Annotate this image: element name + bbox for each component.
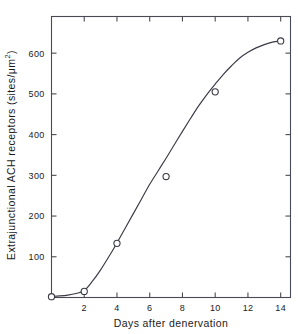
x-tick-label: 10 <box>210 303 221 313</box>
fitted-curve <box>52 41 281 296</box>
y-tick-label: 600 <box>29 49 45 59</box>
data-point-marker <box>163 173 169 179</box>
x-tick-label: 6 <box>147 303 152 313</box>
x-tick-label: 4 <box>114 303 119 313</box>
y-tick-label: 200 <box>29 211 45 221</box>
x-axis-tick-labels: 2468101214 <box>82 303 286 313</box>
x-tick-label: 12 <box>243 303 254 313</box>
data-point-marker <box>48 294 54 300</box>
y-tick-label: 500 <box>29 89 45 99</box>
y-axis-ticks <box>52 53 291 257</box>
y-tick-label: 400 <box>29 130 45 140</box>
data-point-marker <box>114 240 120 246</box>
data-point-marker <box>81 288 87 294</box>
curve-path <box>52 41 281 296</box>
data-points <box>48 38 283 300</box>
x-tick-label: 2 <box>82 303 87 313</box>
scatter-line-plot: 100200300400500600 2468101214 <box>0 0 305 334</box>
y-tick-label: 300 <box>29 171 45 181</box>
figure-container: Extrajunctional ACH receptors (sites/μm2… <box>0 0 305 334</box>
x-axis-ticks <box>84 17 280 298</box>
y-axis-tick-labels: 100200300400500600 <box>29 49 45 263</box>
x-tick-label: 14 <box>275 303 286 313</box>
y-tick-label: 100 <box>29 252 45 262</box>
data-point-marker <box>278 38 284 44</box>
x-tick-label: 8 <box>180 303 185 313</box>
plot-frame <box>52 17 291 298</box>
data-point-marker <box>212 89 218 95</box>
